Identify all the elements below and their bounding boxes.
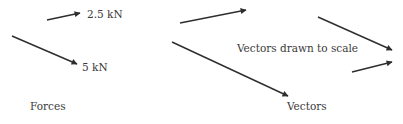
force-label-2-5kn: 2.5 kN (87, 8, 123, 20)
forces-caption: Forces (30, 100, 66, 112)
vector-arrow-4 (352, 62, 392, 72)
vector-arrow-1 (180, 10, 246, 23)
force-vector-diagram: 2.5 kN 5 kN Forces Vectors drawn to scal… (0, 0, 403, 124)
force-arrow-5kn (12, 36, 77, 64)
forces-panel: 2.5 kN 5 kN Forces (12, 8, 123, 112)
vectors-caption: Vectors (286, 100, 327, 112)
force-label-5kn: 5 kN (82, 61, 108, 73)
vectors-panel: Vectors drawn to scale Vectors (172, 10, 392, 112)
force-arrow-2-5kn (47, 13, 80, 20)
scale-annotation: Vectors drawn to scale (236, 42, 358, 54)
